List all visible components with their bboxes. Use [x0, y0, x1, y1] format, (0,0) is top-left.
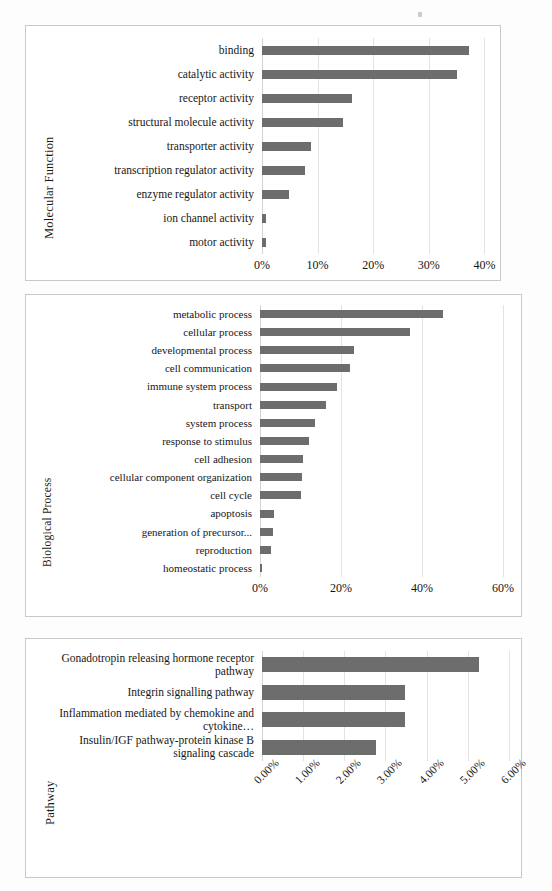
chart-panel-pathway: Pathway Gonadotropin releasing hormone r…	[25, 638, 522, 878]
category-label: Insulin/IGF pathway-protein kinase B sig…	[58, 734, 258, 762]
bar	[260, 401, 326, 409]
chart-panel-molecular-function: Molecular Function bindingcatalytic acti…	[25, 25, 501, 281]
category-label: transcription regulator activity	[66, 158, 258, 182]
category-labels-molecular-function: bindingcatalytic activityreceptor activi…	[66, 38, 258, 254]
scan-artifact-speck	[418, 12, 422, 17]
bar	[260, 528, 273, 536]
bar	[262, 94, 352, 103]
bar-row	[260, 432, 511, 450]
category-label: cellular process	[56, 323, 256, 341]
bar-row	[260, 305, 511, 323]
x-tick-label: 30%	[418, 258, 440, 273]
category-label: apoptosis	[56, 505, 256, 523]
category-label: ion channel activity	[66, 206, 258, 230]
x-tick-label: 60%	[492, 581, 514, 596]
category-labels-biological-process: metabolic processcellular processdevelop…	[56, 305, 256, 577]
x-tick-label: 40%	[473, 258, 495, 273]
y-axis-title-molecular-function: Molecular Function	[42, 136, 57, 239]
category-label: metabolic process	[56, 305, 256, 323]
bar	[260, 419, 315, 427]
bar	[262, 685, 405, 700]
category-label: reproduction	[56, 541, 256, 559]
bars-biological-process	[260, 305, 511, 577]
x-tick-label: 0%	[254, 258, 270, 273]
bar-row	[262, 206, 490, 230]
bar-row	[262, 651, 511, 679]
bar-row	[260, 468, 511, 486]
plot-area-molecular-function	[262, 38, 490, 254]
category-label: motor activity	[66, 230, 258, 254]
bars-molecular-function	[262, 38, 490, 254]
bar-row	[262, 110, 490, 134]
bar	[260, 455, 303, 463]
x-tick-label: 40%	[411, 581, 433, 596]
bar	[260, 364, 350, 372]
bar	[262, 70, 457, 79]
plot-area-pathway	[262, 651, 511, 761]
category-label: Inflammation mediated by chemokine and c…	[58, 706, 258, 734]
bar	[262, 166, 305, 175]
bar	[260, 546, 271, 554]
bar	[262, 142, 311, 151]
category-label: Integrin signalling pathway	[58, 679, 258, 707]
bar-row	[260, 505, 511, 523]
x-tick-label: 10%	[307, 258, 329, 273]
category-label: generation of precursor...	[56, 523, 256, 541]
y-axis-title-biological-process: Biological Process	[41, 477, 53, 567]
category-label: transport	[56, 396, 256, 414]
bar-row	[260, 359, 511, 377]
chart-panel-biological-process: Biological Process metabolic processcell…	[25, 294, 522, 617]
bars-pathway	[262, 651, 511, 761]
bar-row	[260, 559, 511, 577]
category-labels-pathway: Gonadotropin releasing hormone receptor …	[58, 651, 258, 761]
bar-row	[262, 679, 511, 707]
category-label: cellular component organization	[56, 468, 256, 486]
category-label: cell cycle	[56, 486, 256, 504]
category-label: receptor activity	[66, 86, 258, 110]
bar	[262, 712, 405, 727]
bar	[260, 328, 410, 336]
bar-row	[262, 38, 490, 62]
x-tick-label: 0%	[252, 581, 268, 596]
x-tick-label: 20%	[362, 258, 384, 273]
bar	[260, 310, 443, 318]
bar	[262, 238, 266, 247]
bar	[262, 190, 289, 199]
bar	[260, 564, 262, 572]
bar-row	[260, 414, 511, 432]
bar-row	[262, 62, 490, 86]
x-axis-ticks-pathway: 0.00%1.00%2.00%3.00%4.00%5.00%6.00%	[262, 767, 511, 827]
bar	[262, 214, 266, 223]
bar-row	[262, 706, 511, 734]
bar	[260, 383, 337, 391]
category-label: response to stimulus	[56, 432, 256, 450]
category-label: developmental process	[56, 341, 256, 359]
bar-row	[260, 396, 511, 414]
bar	[260, 346, 354, 354]
bar-row	[260, 341, 511, 359]
category-label: immune system process	[56, 378, 256, 396]
category-label: enzyme regulator activity	[66, 182, 258, 206]
bar-row	[260, 378, 511, 396]
category-label: cell adhesion	[56, 450, 256, 468]
category-label: cell communication	[56, 359, 256, 377]
bar-row	[260, 541, 511, 559]
bar-row	[260, 450, 511, 468]
bar	[262, 118, 343, 127]
figure-page: Molecular Function bindingcatalytic acti…	[0, 0, 552, 891]
bar-row	[262, 734, 511, 762]
category-label: structural molecule activity	[66, 110, 258, 134]
bar	[260, 491, 301, 499]
bar	[262, 740, 376, 755]
category-label: homeostatic process	[56, 559, 256, 577]
bar	[262, 46, 469, 55]
bar-row	[262, 158, 490, 182]
bar-row	[260, 323, 511, 341]
bar-row	[260, 486, 511, 504]
bar-row	[262, 230, 490, 254]
bar-row	[260, 523, 511, 541]
bar	[260, 437, 309, 445]
plot-area-biological-process	[260, 305, 511, 577]
bar-row	[262, 134, 490, 158]
bar-row	[262, 182, 490, 206]
